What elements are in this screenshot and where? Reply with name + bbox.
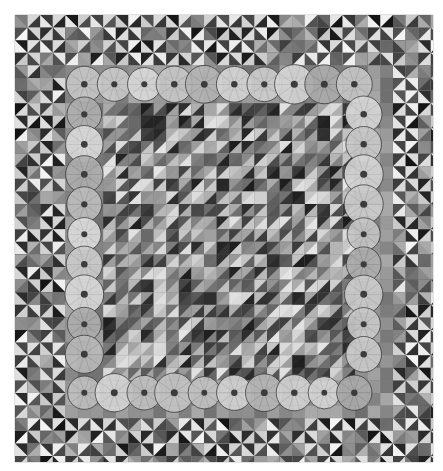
quilt-image (15, 15, 433, 462)
quilt-patchwork (15, 15, 433, 462)
